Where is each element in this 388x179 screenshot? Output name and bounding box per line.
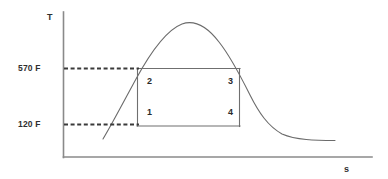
tick-label-lower-120f: 120 F [18, 120, 41, 129]
y-axis-label: T [47, 13, 53, 22]
state-point-label-3: 3 [228, 77, 233, 86]
ts-diagram-canvas [0, 0, 388, 179]
state-point-label-1: 1 [147, 108, 152, 117]
x-axis-label: s [344, 165, 349, 174]
tick-label-upper-570f: 570 F [18, 64, 41, 73]
ts-diagram-figure: T s 570 F 120 F 2 3 1 4 [0, 0, 388, 179]
state-point-label-2: 2 [147, 77, 152, 86]
state-point-label-4: 4 [228, 108, 233, 117]
